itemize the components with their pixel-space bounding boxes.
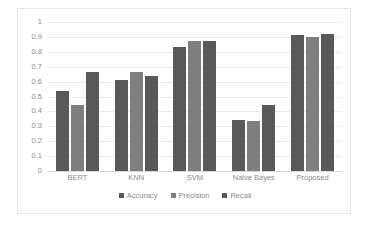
legend-item[interactable]: Accuracy bbox=[119, 192, 158, 200]
bar bbox=[306, 37, 319, 171]
x-axis: BERTKNNSVMNaive BayesProposed bbox=[48, 174, 342, 182]
x-axis-tick-label: BERT bbox=[48, 174, 107, 182]
y-axis-tick-label: 0.3 bbox=[32, 123, 42, 131]
legend-item[interactable]: Recall bbox=[222, 192, 251, 200]
bar-group bbox=[107, 22, 166, 171]
bar bbox=[115, 80, 128, 171]
y-axis-tick-label: 0.8 bbox=[32, 48, 42, 56]
chart-container: 10.90.80.70.60.50.40.30.20.10 BERTKNNSVM… bbox=[17, 8, 351, 214]
x-axis-tick-label: Proposed bbox=[283, 174, 342, 182]
y-axis-tick-label: 0 bbox=[38, 167, 42, 175]
legend-swatch-icon bbox=[119, 193, 124, 198]
y-axis-tick-label: 0.7 bbox=[32, 63, 42, 71]
bar bbox=[262, 105, 275, 171]
bar bbox=[145, 76, 158, 171]
bar bbox=[130, 72, 143, 171]
bar-group bbox=[48, 22, 107, 171]
bar-group bbox=[224, 22, 283, 171]
axis-baseline bbox=[48, 171, 342, 172]
y-axis-tick-label: 0.5 bbox=[32, 93, 42, 101]
legend-label: Precision bbox=[179, 192, 210, 200]
bar bbox=[188, 41, 201, 171]
bar bbox=[173, 47, 186, 171]
x-axis-tick-label: SVM bbox=[166, 174, 225, 182]
bar bbox=[71, 105, 84, 171]
y-axis-tick-label: 0.6 bbox=[32, 78, 42, 86]
legend-swatch-icon bbox=[171, 193, 176, 198]
x-axis-tick-label: KNN bbox=[107, 174, 166, 182]
y-axis-tick-label: 1 bbox=[38, 18, 42, 26]
y-axis-tick-label: 0.1 bbox=[32, 152, 42, 160]
y-axis: 10.90.80.70.60.50.40.30.20.10 bbox=[18, 22, 45, 171]
bar-group bbox=[283, 22, 342, 171]
bar bbox=[56, 91, 69, 171]
bars-layer bbox=[48, 22, 342, 171]
chart-legend: AccuracyPrecisionRecall bbox=[18, 192, 352, 200]
y-axis-tick-label: 0.4 bbox=[32, 108, 42, 116]
legend-label: Recall bbox=[230, 192, 251, 200]
bar bbox=[247, 121, 260, 171]
bar bbox=[86, 72, 99, 171]
bar bbox=[291, 35, 304, 171]
y-axis-tick-label: 0.2 bbox=[32, 137, 42, 145]
bar-group bbox=[166, 22, 225, 171]
bar bbox=[321, 34, 334, 171]
y-axis-tick-label: 0.9 bbox=[32, 33, 42, 41]
bar bbox=[203, 41, 216, 171]
x-axis-tick-label: Naive Bayes bbox=[224, 174, 283, 182]
legend-swatch-icon bbox=[222, 193, 227, 198]
bar bbox=[232, 120, 245, 171]
legend-label: Accuracy bbox=[127, 192, 158, 200]
legend-item[interactable]: Precision bbox=[171, 192, 210, 200]
